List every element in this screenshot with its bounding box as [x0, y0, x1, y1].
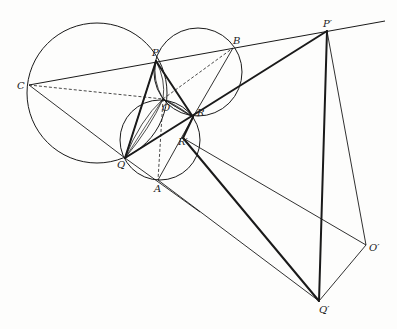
thick-Pp-Qp: [319, 31, 327, 301]
label-P: P: [152, 48, 159, 58]
dashed-CO: [29, 85, 163, 99]
line-CQ: [29, 85, 125, 158]
thick-PQ: [125, 61, 156, 158]
label-A: A: [154, 184, 161, 194]
line-Op-Qp: [319, 245, 366, 301]
label-B: B: [233, 36, 240, 46]
label-Qp: Q′: [319, 305, 329, 315]
label-Op: O′: [369, 243, 379, 253]
line-CP-extended: [29, 21, 385, 85]
line-Pp-Op: [327, 31, 366, 245]
diagram-svg: [0, 0, 397, 329]
label-Q: Q: [117, 160, 125, 170]
label-O: O: [162, 103, 170, 113]
circle-QAR: [120, 100, 200, 180]
label-R: R: [197, 108, 205, 118]
geometry-diagram: P B P′ C O R R′ Q A O′ Q′: [0, 0, 397, 329]
dashed-OB: [163, 48, 233, 99]
label-Pp: P′: [323, 19, 332, 29]
thick-Rp-Qp: [183, 138, 319, 301]
line-Rp-Op: [183, 138, 366, 245]
line-A-Qp: [158, 180, 319, 301]
line-QA-extended: [125, 158, 200, 212]
label-Rp: R′: [178, 137, 188, 147]
label-C: C: [17, 81, 25, 91]
